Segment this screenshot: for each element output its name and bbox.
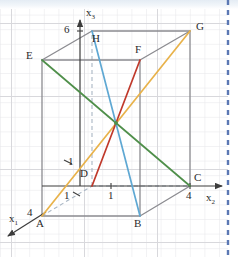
vertex-label-G: G [196,21,204,32]
vertex-label-A: A [36,218,44,229]
vertex-label-E: E [26,50,33,61]
axis-label-x2: x2 [206,192,215,206]
unit-tick-label-x1-a: 1 [68,156,74,167]
unit-tick-label-x1-b: 1 [64,190,70,201]
vertex-label-D: D [80,168,88,179]
tick-label-x1-4: 4 [27,207,33,218]
diagonal-intersection-point [114,121,118,125]
vertex-label-H: H [92,33,100,44]
vertex-label-F: F [135,44,141,55]
axis-label-x3: x3 [86,7,95,21]
tick-label-x2-4: 4 [186,190,192,201]
axis-label-x1: x1 [9,213,18,227]
tick-label-x3-6: 6 [64,24,70,35]
figure-canvas: A B C D E F G H x1 x2 x3 4 4 6 1 1 1 [0,0,238,257]
vertex-label-C: C [194,172,201,183]
vertex-label-B: B [134,218,141,229]
unit-tick-label-x2: 1 [108,190,114,201]
